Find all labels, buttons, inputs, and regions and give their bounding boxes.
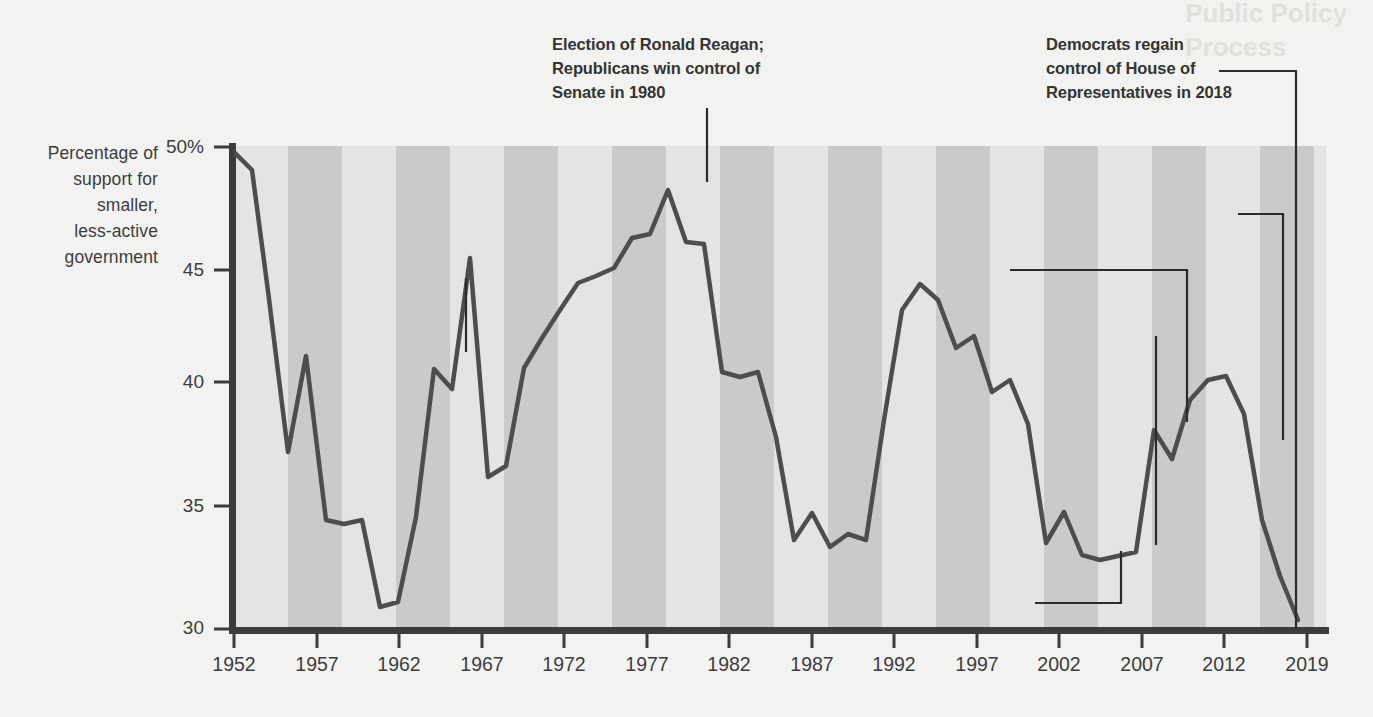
y-axis-line: [229, 143, 236, 633]
chart-svg: [0, 0, 1373, 717]
x-axis-line: [229, 627, 1329, 634]
x-tick-marks: [234, 634, 1307, 648]
y-tick-marks: [214, 147, 230, 629]
chart-page: Public Policy Process Percentage of supp…: [0, 0, 1373, 717]
